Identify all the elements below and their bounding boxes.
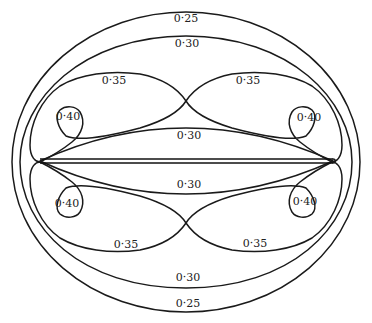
label-025-top: 0·25 (174, 12, 199, 25)
label-025-bottom: 0·25 (176, 297, 201, 310)
label-040-lower-right: 0·40 (293, 195, 318, 208)
label-030-top: 0·30 (175, 37, 200, 50)
label-040-upper-left: 0·40 (56, 110, 81, 123)
label-030-inner-lower: 0·30 (177, 178, 202, 191)
label-035-lower-left: 0·35 (114, 238, 139, 251)
label-030-inner-upper: 0·30 (177, 129, 202, 142)
label-035-upper-left: 0·35 (102, 74, 127, 87)
label-035-lower-right: 0·35 (243, 237, 268, 250)
label-035-upper-right: 0·35 (236, 74, 261, 87)
contour-diagram: 0·25 0·30 0·35 0·35 0·40 0·40 0·30 0·30 … (0, 0, 372, 323)
label-040-upper-right: 0·40 (297, 111, 322, 124)
contour-plot: 0·25 0·30 0·35 0·35 0·40 0·40 0·30 0·30 … (0, 0, 372, 323)
contour-035-lower-left (30, 162, 186, 252)
contour-030-outer (20, 36, 352, 288)
label-030-bottom: 0·30 (176, 271, 201, 284)
label-040-lower-left: 0·40 (55, 197, 80, 210)
contour-025 (12, 12, 360, 312)
